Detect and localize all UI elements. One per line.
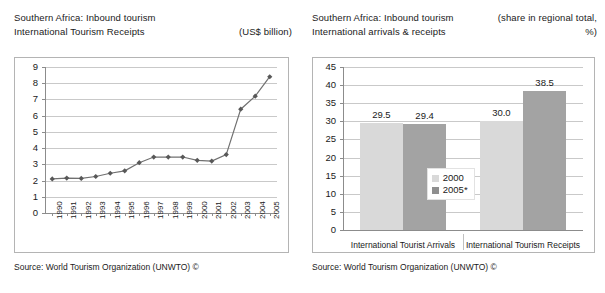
y-axis-tick-label: 8 <box>33 78 38 88</box>
category-separator <box>463 234 464 250</box>
y-axis-tick-label: 20 <box>325 153 336 163</box>
y-axis-tick-label: 0 <box>331 225 336 235</box>
x-tick-mark <box>52 213 53 216</box>
x-tick-mark <box>255 213 256 216</box>
legend-swatch-icon <box>432 187 439 194</box>
y-axis-tick-label: 7 <box>33 95 38 105</box>
x-tick-mark <box>226 213 227 216</box>
x-tick-mark <box>197 213 198 216</box>
data-point-marker <box>209 158 214 163</box>
legend-label: 2000 <box>443 173 464 183</box>
bar-value-label: 30.0 <box>492 108 511 118</box>
y-axis-tick-label: 5 <box>33 127 38 137</box>
data-point-marker <box>93 174 98 179</box>
data-point-marker <box>151 154 156 159</box>
bar-2000 <box>360 123 403 230</box>
x-tick-mark <box>212 213 213 216</box>
data-point-marker <box>64 176 69 181</box>
y-axis-tick-label: 40 <box>325 80 336 90</box>
y-axis-tick-label: 15 <box>325 171 336 181</box>
x-tick-mark <box>183 213 184 216</box>
data-point-marker <box>79 176 84 181</box>
data-point-marker <box>180 154 185 159</box>
bar-value-label: 38.5 <box>535 78 554 88</box>
left-chart-title-line1: Southern Africa: Inbound tourism <box>14 12 156 24</box>
left-chart-title-line2: International Tourism Receipts <box>14 26 145 38</box>
y-tick-mark <box>340 230 343 231</box>
legend-item[interactable]: 2000 <box>432 172 468 184</box>
x-tick-mark <box>96 213 97 216</box>
y-axis-tick-label: 3 <box>33 160 38 170</box>
legend-label: 2005* <box>443 185 468 195</box>
data-point-marker <box>166 154 171 159</box>
y-axis-line <box>343 67 344 230</box>
x-tick-mark <box>168 213 169 216</box>
right-chart-unit-line2: %) <box>585 26 597 38</box>
bar-2005 <box>523 91 566 230</box>
x-axis-category-label: International Tourism Receipts <box>466 240 580 250</box>
data-point-marker <box>122 168 127 173</box>
x-axis-category-label: International Tourist Arrivals <box>351 240 455 250</box>
right-chart-source: Source: World Tourism Organization (UNWT… <box>312 262 497 272</box>
y-axis-tick-label: 5 <box>331 207 336 217</box>
legend-swatch-icon <box>432 175 439 182</box>
data-point-marker <box>224 152 229 157</box>
right-chart-title-line1: Southern Africa: Inbound tourism <box>312 12 454 24</box>
y-axis-tick-label: 10 <box>325 189 336 199</box>
chart-legend: 20002005* <box>427 168 475 200</box>
bar-2000 <box>480 121 523 230</box>
line-series-2005 <box>45 67 277 213</box>
bar-value-label: 29.4 <box>415 111 434 121</box>
right-chart-frame: 05101520253035404529.529.4International … <box>312 57 595 253</box>
data-point-marker <box>108 171 113 176</box>
left-chart-panel: Southern Africa: Inbound tourism Interna… <box>0 0 302 293</box>
y-axis-tick-label: 1 <box>33 192 38 202</box>
y-axis-tick-label: 4 <box>33 143 38 153</box>
x-tick-mark <box>81 213 82 216</box>
right-chart-header: Southern Africa: Inbound tourism (share … <box>312 12 597 40</box>
data-point-marker <box>195 158 200 163</box>
x-tick-mark <box>241 213 242 216</box>
gridline-y <box>343 230 583 231</box>
y-tick-mark <box>42 213 45 214</box>
x-tick-mark <box>154 213 155 216</box>
left-chart-header: Southern Africa: Inbound tourism Interna… <box>14 12 292 40</box>
line-path <box>52 77 270 179</box>
data-point-marker <box>137 160 142 165</box>
y-axis-tick-label: 25 <box>325 135 336 145</box>
bar-value-label: 29.5 <box>372 110 391 120</box>
x-tick-mark <box>67 213 68 216</box>
y-axis-tick-label: 45 <box>325 62 336 72</box>
x-tick-mark <box>270 213 271 216</box>
y-axis-tick-label: 6 <box>33 111 38 121</box>
figure-pair: Southern Africa: Inbound tourism Interna… <box>0 0 605 293</box>
left-chart-frame: 0123456789199019911992199319941995199619… <box>14 57 289 253</box>
y-axis-tick-label: 9 <box>33 62 38 72</box>
y-axis-tick-label: 0 <box>33 208 38 218</box>
left-chart-source: Source: World Tourism Organization (UNWT… <box>14 262 199 272</box>
right-chart-panel: Southern Africa: Inbound tourism (share … <box>302 0 605 293</box>
y-axis-tick-label: 2 <box>33 176 38 186</box>
right-plot-area: 05101520253035404529.529.4International … <box>343 67 583 230</box>
y-axis-tick-label: 35 <box>325 98 336 108</box>
left-plot-area: 0123456789199019911992199319941995199619… <box>45 67 277 213</box>
left-chart-unit: (US$ billion) <box>239 26 292 38</box>
right-chart-title-line2: International arrivals & receipts <box>312 26 446 38</box>
x-tick-mark <box>110 213 111 216</box>
legend-item[interactable]: 2005* <box>432 184 468 196</box>
x-tick-mark <box>139 213 140 216</box>
right-chart-unit-line1: (share in regional total, <box>498 12 597 24</box>
x-tick-mark <box>125 213 126 216</box>
gridline-y <box>343 67 583 68</box>
data-point-marker <box>50 176 55 181</box>
y-axis-tick-label: 30 <box>325 117 336 127</box>
